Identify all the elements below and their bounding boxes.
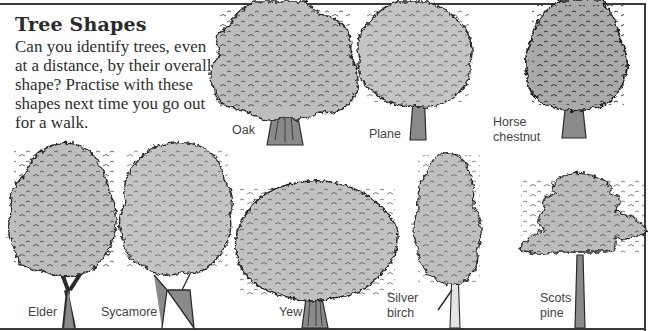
scots-pine-tree-illustration bbox=[515, 170, 654, 330]
oak-label: Oak bbox=[232, 123, 255, 138]
page-title: Tree Shapes bbox=[15, 13, 147, 35]
intro-text: Can you identify trees, even at a distan… bbox=[15, 37, 220, 132]
sycamore-tree-illustration bbox=[112, 140, 242, 330]
silver-birch-tree-illustration bbox=[408, 150, 488, 330]
oak-tree-illustration bbox=[205, 0, 365, 145]
elder-label: Elder bbox=[28, 305, 57, 320]
sycamore-label: Sycamore bbox=[101, 305, 157, 320]
yew-tree-illustration bbox=[232, 178, 402, 330]
plane-label: Plane bbox=[369, 127, 401, 142]
yew-label: Yew bbox=[279, 305, 302, 320]
scots-pine-label: Scots pine bbox=[540, 291, 571, 321]
silver-birch-label: Silver birch bbox=[387, 291, 418, 321]
plane-tree-illustration bbox=[352, 0, 482, 142]
horse-chestnut-label: Horse chestnut bbox=[493, 115, 540, 145]
elder-tree-illustration bbox=[4, 140, 124, 330]
